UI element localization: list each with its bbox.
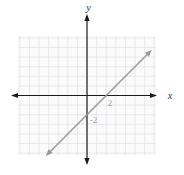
y-axis-label: y (85, 2, 91, 13)
x-axis-arrowhead-left-icon (11, 93, 18, 98)
coordinate-plane-figure: x y 2 -2 (0, 0, 184, 175)
y-axis-arrowhead-top-icon (84, 14, 89, 21)
graph-canvas: x y 2 -2 (0, 0, 184, 175)
y-tick-label: -2 (90, 115, 98, 125)
x-tick-label: 2 (108, 98, 113, 108)
x-axis-label: x (167, 90, 173, 101)
y-axis-arrowhead-bottom-icon (84, 158, 89, 165)
